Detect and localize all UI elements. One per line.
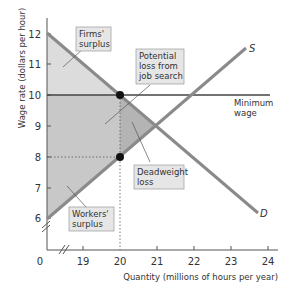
x-tick-label: 20 [114,256,127,267]
point-supply-min-wage [116,153,124,161]
point-demand-min-wage [116,91,124,99]
x-tick-label: 21 [151,256,164,267]
svg-text:Potential loss from: Potential loss from job search [138,51,183,81]
workers-surplus-callout: Workers' surplus [69,207,114,231]
y-tick-label: 10 [28,90,41,101]
y-axis-title: Wage rate (dollars per hour) [17,8,27,128]
minimum-wage-label: Minimum wage [234,98,276,118]
y-tick-label: 12 [28,29,41,40]
y-tick-label: 8 [35,152,41,163]
y-tick-label: 7 [35,183,41,194]
demand-label: D [260,208,268,219]
x-tick-label: 19 [77,256,90,267]
firms-surplus-callout: Firms' surplus [76,27,111,51]
y-tick-label: 6 [35,213,41,224]
chart: 12 11 10 9 8 7 6 0 19 20 21 22 23 24 Qua… [0,0,295,293]
x-tick-label: 22 [188,256,201,267]
svg-text:Firms' surplus: Firms' surplus [79,29,110,49]
x-ticks [83,246,268,250]
potential-loss-callout: Potential loss from job search [136,49,184,84]
x-axis-title: Quantity (millions of hours per year) [123,272,278,282]
x-tick-label-zero: 0 [37,256,43,267]
y-axis-break-icon [42,221,50,232]
deadweight-loss-callout: Deadweight loss [134,165,191,189]
deadweight-loss-region [120,95,157,157]
y-tick-label: 11 [28,59,41,70]
supply-label: S [249,43,256,54]
x-tick-label: 23 [225,256,238,267]
y-tick-label: 9 [35,121,41,132]
x-tick-label: 24 [262,256,275,267]
